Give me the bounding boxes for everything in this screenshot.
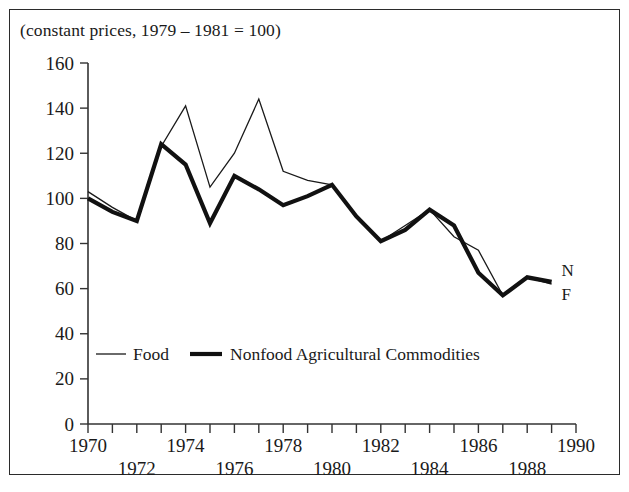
- x-tick-label: 1970: [69, 435, 107, 456]
- y-tick-marks: [80, 63, 88, 424]
- x-axis: 1970197219741976197819801982198419861988…: [69, 424, 595, 479]
- x-tick-marks: [88, 424, 576, 433]
- y-tick-label: 60: [55, 278, 74, 299]
- y-tick-label: 0: [65, 414, 75, 435]
- y-tick-label: 100: [46, 188, 75, 209]
- y-tick-label: 40: [55, 323, 74, 344]
- x-tick-label: 1972: [118, 458, 156, 479]
- y-tick-label: 80: [55, 233, 74, 254]
- legend-label-nonfood: Nonfood Agricultural Commodities: [230, 344, 480, 364]
- plot-area: 020406080100120140160 197019721974197619…: [0, 0, 629, 492]
- series-line-food: [88, 99, 552, 295]
- y-axis: 020406080100120140160: [46, 53, 89, 435]
- x-tick-labels: 1970197219741976197819801982198419861988…: [69, 435, 595, 479]
- y-tick-label: 20: [55, 368, 74, 389]
- y-tick-labels: 020406080100120140160: [46, 53, 75, 435]
- x-tick-label: 1986: [459, 435, 497, 456]
- legend-label-food: Food: [133, 344, 169, 364]
- y-tick-label: 140: [46, 98, 75, 119]
- chart-figure: (constant prices, 1979 – 1981 = 100) 020…: [0, 0, 629, 492]
- x-tick-label: 1976: [215, 458, 253, 479]
- end-label-food: F: [562, 285, 571, 304]
- legend: Food Nonfood Agricultural Commodities: [96, 344, 480, 364]
- x-tick-label: 1988: [508, 458, 546, 479]
- x-tick-label: 1982: [362, 435, 400, 456]
- x-tick-label: 1984: [411, 458, 450, 479]
- x-tick-label: 1974: [167, 435, 206, 456]
- end-label-nonfood: N: [562, 261, 574, 280]
- x-tick-label: 1990: [557, 435, 595, 456]
- y-tick-label: 160: [46, 53, 75, 74]
- series-line-nonfood: [88, 144, 552, 295]
- x-tick-label: 1978: [264, 435, 302, 456]
- y-tick-label: 120: [46, 143, 75, 164]
- x-tick-label: 1980: [313, 458, 351, 479]
